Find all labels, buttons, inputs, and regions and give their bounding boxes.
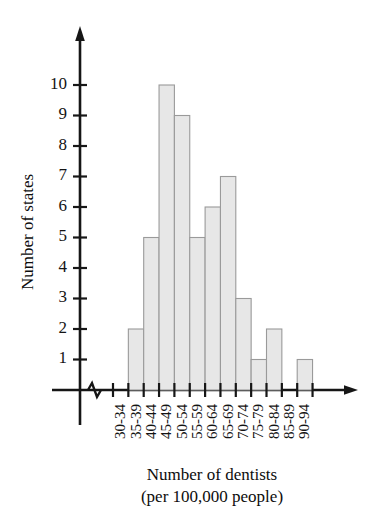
x-tick-label: 75-79 [250, 404, 266, 439]
histogram-bar [190, 238, 205, 391]
histogram-chart: 1 2 3 4 5 6 7 8 9 10 30-3435-3940-4445-4… [0, 0, 389, 518]
histogram-bar [205, 207, 220, 390]
x-tick-label: 90-94 [296, 404, 312, 439]
y-tick-label: 8 [59, 135, 68, 154]
x-axis-title-line1: Number of dentists [147, 465, 277, 484]
y-tick-label: 6 [59, 196, 68, 215]
x-tick-label: 60-64 [204, 404, 220, 439]
y-tick-label: 10 [50, 74, 67, 93]
x-tick-label: 45-49 [158, 404, 174, 439]
y-tick-label: 4 [59, 257, 68, 276]
x-tick-label: 65-69 [220, 404, 236, 439]
y-tick-label: 2 [59, 318, 68, 337]
x-tick-label: 55-59 [189, 404, 205, 439]
y-tick-label: 3 [59, 287, 68, 306]
histogram-bar [251, 360, 266, 391]
x-tick-label: 50-54 [174, 404, 190, 439]
histogram-bar [159, 85, 174, 390]
histogram-bar [236, 299, 251, 391]
y-tick-label: 7 [59, 165, 68, 184]
histogram-bar [128, 329, 143, 390]
x-tick-label: 70-74 [235, 404, 251, 439]
histogram-bar [220, 177, 235, 391]
y-tick-label: 1 [59, 348, 68, 367]
x-tick-labels: 30-3435-3940-4445-4950-5455-5960-6465-69… [112, 404, 312, 439]
x-tick-label: 85-89 [281, 404, 297, 439]
histogram-bar [267, 329, 282, 390]
histogram-figure: 1 2 3 4 5 6 7 8 9 10 30-3435-3940-4445-4… [0, 0, 389, 518]
y-tick-label: 9 [59, 104, 68, 123]
x-tick-label: 30-34 [112, 404, 128, 439]
y-axis-title: Number of states [18, 174, 37, 290]
x-tick-label: 40-44 [143, 404, 159, 439]
y-tick-label: 5 [59, 226, 68, 245]
histogram-bar [174, 116, 189, 391]
histogram-bar [297, 360, 312, 391]
x-tick-label: 80-84 [266, 404, 282, 439]
y-axis-arrow-icon [75, 26, 85, 41]
x-axis-arrow-icon [344, 385, 358, 395]
histogram-bar [144, 238, 159, 391]
x-axis-title-line2: (per 100,000 people) [141, 487, 283, 506]
bars-group [128, 85, 312, 390]
y-tick-labels: 1 2 3 4 5 6 7 8 9 10 [50, 74, 68, 368]
x-tick-label: 35-39 [128, 404, 144, 439]
